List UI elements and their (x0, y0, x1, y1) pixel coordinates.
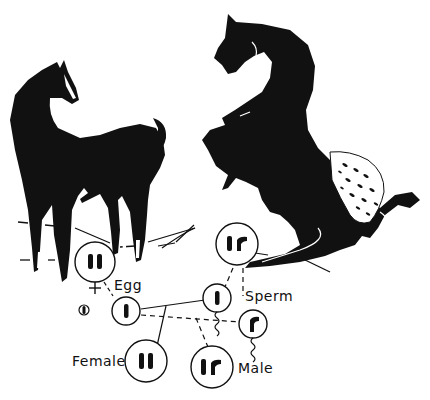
label-female: Female (72, 353, 126, 369)
cell-offspring-female (125, 340, 167, 382)
cell-mother (75, 242, 115, 282)
label-egg: Egg (114, 277, 142, 293)
label-male: Male (238, 360, 273, 376)
female-symbol-icon (89, 282, 101, 294)
genetics-diagram (0, 0, 430, 400)
label-sperm: Sperm (245, 288, 293, 304)
